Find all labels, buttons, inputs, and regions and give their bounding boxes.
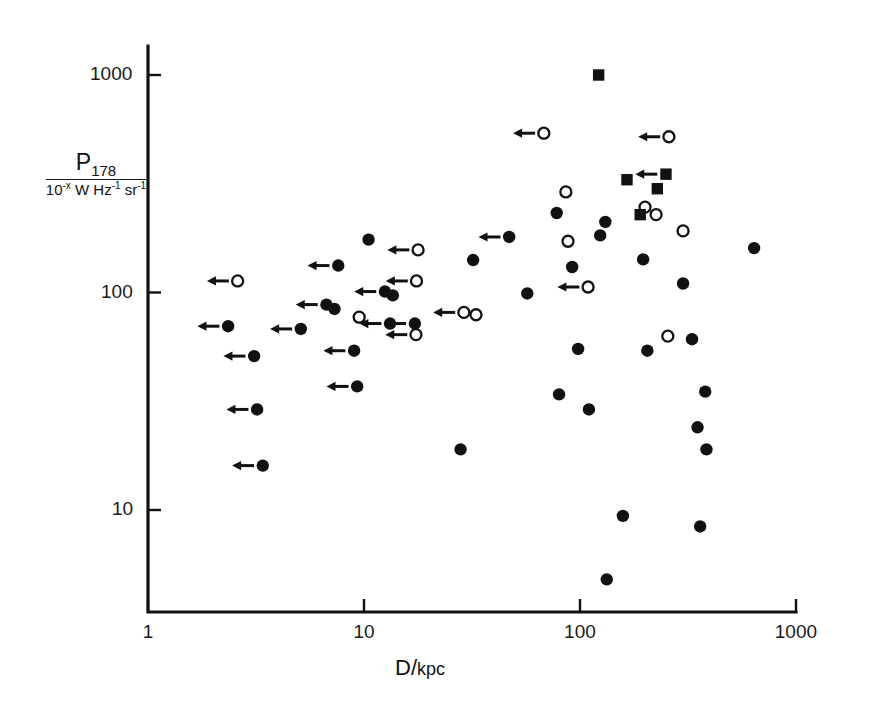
figure-root: P178 10-x W Hz-1 sr-1 D/kpc 101001000110… [0, 0, 869, 712]
data-point-filled-circle [362, 233, 374, 245]
data-point-filled-circle [478, 231, 515, 243]
data-point-open-circle [386, 275, 422, 286]
data-point-filled-circle [553, 388, 565, 400]
data-point-filled-circle [328, 303, 340, 315]
data-point-filled-circle [594, 229, 606, 241]
y-axis-title-denominator: 10-x W Hz-1 sr-1 [46, 179, 146, 198]
data-point-filled-circle [748, 242, 760, 254]
data-point-filled-circle [699, 385, 711, 397]
data-point-filled-circle [467, 254, 479, 266]
x-tick-label-10: 10 [353, 621, 374, 643]
data-point-filled-circle [387, 289, 399, 301]
x-axis-unit: kpc [417, 659, 445, 679]
data-point-filled-circle [354, 285, 391, 297]
data-point-filled-circle [232, 459, 269, 471]
y-tick-label-1000: 1000 [90, 63, 132, 85]
y-axis-denominator-units: W Hz [75, 181, 112, 198]
y-axis-title: P178 10-x W Hz-1 sr-1 [36, 150, 156, 199]
data-point-filled-circle [296, 298, 333, 310]
data-point-filled-circle [641, 345, 653, 357]
data-point-open-circle [354, 312, 365, 323]
data-point-filled-circle [601, 573, 613, 585]
scatter-plot-canvas [0, 0, 869, 712]
data-point-open-circle [662, 331, 673, 342]
data-point-filled-circle [694, 520, 706, 532]
data-point-open-circle [385, 329, 421, 340]
y-axis-units-exp-2: -1 [137, 180, 146, 191]
data-point-filled-square [652, 183, 663, 194]
data-point-filled-square [593, 69, 604, 80]
data-point-filled-circle [223, 350, 260, 362]
data-point-filled-circle [197, 320, 234, 332]
data-point-filled-circle [566, 261, 578, 273]
data-point-filled-square [635, 168, 671, 179]
data-point-open-circle [470, 309, 481, 320]
data-point-open-circle [638, 131, 674, 142]
x-axis-title: D/kpc [395, 655, 445, 681]
y-axis-title-numerator: P178 [36, 150, 156, 178]
data-point-open-circle [433, 307, 469, 318]
y-axis-denominator-prefix: 10 [46, 181, 63, 198]
y-axis-denominator-exponent: -x [63, 180, 71, 191]
data-point-filled-circle [454, 443, 466, 455]
x-tick-label-1: 1 [143, 621, 154, 643]
data-point-open-circle [207, 275, 243, 286]
data-point-open-circle [563, 236, 574, 247]
data-point-filled-circle [637, 253, 649, 265]
data-point-open-circle [513, 128, 549, 139]
y-axis-symbol: P [76, 149, 91, 175]
data-point-open-circle [387, 244, 423, 255]
y-tick-label-10: 10 [112, 498, 133, 520]
y-axis-units-sr: sr [125, 181, 138, 198]
data-point-filled-circle [308, 259, 345, 271]
data-point-filled-circle [686, 333, 698, 345]
x-tick-label-1000: 1000 [775, 621, 817, 643]
data-point-filled-square [635, 209, 646, 220]
data-point-filled-circle [521, 287, 533, 299]
data-markers [197, 69, 760, 585]
data-point-filled-circle [550, 207, 562, 219]
data-point-open-circle [560, 186, 571, 197]
y-tick-label-100: 100 [101, 281, 133, 303]
y-axis-units-exp-1: -1 [112, 180, 121, 191]
data-point-filled-square [621, 174, 632, 185]
data-point-filled-circle [572, 343, 584, 355]
data-point-filled-circle [323, 345, 360, 357]
data-point-filled-circle [691, 421, 703, 433]
data-point-filled-circle [270, 323, 307, 335]
data-point-filled-circle [583, 403, 595, 415]
data-point-filled-circle [700, 443, 712, 455]
data-point-filled-circle [326, 380, 363, 392]
data-point-filled-circle [599, 216, 611, 228]
x-tick-label-100: 100 [564, 621, 596, 643]
data-point-open-circle [557, 281, 593, 292]
data-point-filled-circle [677, 277, 689, 289]
data-point-open-circle [678, 225, 689, 236]
data-point-filled-circle [617, 510, 629, 522]
y-axis-subscript: 178 [91, 162, 116, 179]
data-point-filled-circle [226, 403, 263, 415]
data-point-open-circle [651, 209, 662, 220]
x-axis-symbol: D [395, 655, 411, 680]
